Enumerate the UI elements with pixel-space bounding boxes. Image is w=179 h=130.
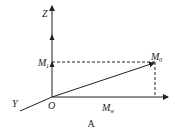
- y-label: Y: [12, 98, 19, 109]
- m1-label: M 1: [37, 57, 49, 69]
- origin-label: O: [48, 100, 55, 111]
- z-label: Z: [42, 8, 48, 19]
- svg-text:1: 1: [46, 63, 49, 69]
- z-axis-mid-arrow-icon: [50, 34, 55, 40]
- z-axis: [50, 6, 55, 97]
- m0-label: M 0: [150, 51, 162, 63]
- vector-m0: [52, 63, 154, 97]
- figure-caption: A: [87, 118, 95, 129]
- mw-label: M w: [101, 102, 114, 114]
- svg-text:w: w: [110, 108, 114, 114]
- svg-text:0: 0: [159, 57, 162, 63]
- vector-diagram: Z Y O M 1 M 0 M w A: [0, 0, 179, 130]
